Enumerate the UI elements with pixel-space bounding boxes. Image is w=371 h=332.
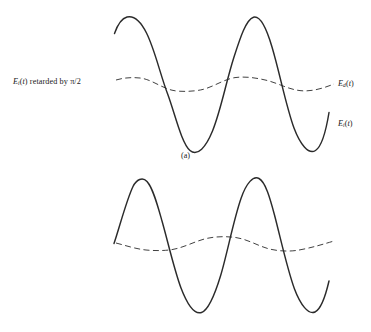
panel-b-plot: [0, 166, 371, 332]
panel-b: Ei(t) advanced by π/2 Ed(t) Ei(t) (b): [0, 166, 371, 332]
panel-a-caption: (a): [0, 152, 371, 160]
panel-a-label-ed: Ed(t): [338, 80, 354, 89]
panel-a-left-text: retarded by π/2: [28, 77, 81, 86]
curve-ei-panel-a: [115, 17, 330, 153]
figure-root: Ei(t) retarded by π/2 Ed(t) Ei(t) (a) Ei…: [0, 0, 371, 332]
curve-ei-panel-b: [114, 178, 329, 313]
panel-a: Ei(t) retarded by π/2 Ed(t) Ei(t) (a): [0, 0, 371, 166]
curve-ed-panel-b: [116, 237, 334, 251]
panel-a-left-label: Ei(t) retarded by π/2: [13, 78, 81, 87]
panel-a-label-ei: Ei(t): [338, 120, 353, 129]
